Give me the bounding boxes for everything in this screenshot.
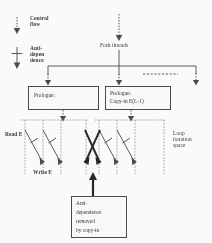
removed-dependence-x-marker xyxy=(84,130,102,165)
anti-dependence-arrow-1 xyxy=(25,130,45,165)
anti-dependence-arrow-3 xyxy=(99,130,119,165)
annotation-pointer-arrow xyxy=(89,172,97,196)
anti-dependence-arrow-2 xyxy=(43,130,63,165)
annotation-line-1: Anti- xyxy=(76,200,87,207)
annotation-line-4: by copy-in xyxy=(76,227,99,234)
annotation-line-2: dependence xyxy=(76,209,101,216)
annotation-line-3: removed xyxy=(76,218,95,225)
figure-canvas: Control flow Anti- depen dence Fork thre… xyxy=(0,0,212,243)
anti-dependence-arrow-4 xyxy=(117,130,137,165)
loop-iteration-space-label: Loop iteration space xyxy=(173,130,192,149)
read-e-label: Read E xyxy=(5,131,23,137)
write-e-label: Write E xyxy=(33,169,52,175)
